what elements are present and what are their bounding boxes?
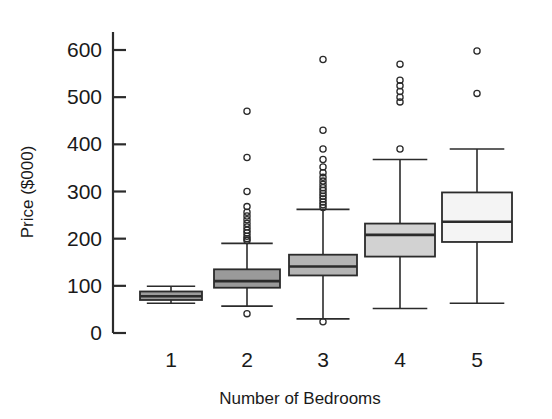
y-axis-tick-label: 300: [67, 180, 102, 203]
y-axis-tick-labels: 0100200300400500600: [67, 38, 102, 344]
outlier-point: [474, 48, 480, 54]
x-axis-category-label: 1: [165, 348, 177, 371]
y-axis: [113, 32, 126, 333]
y-axis-tick-label: 400: [67, 132, 102, 155]
outlier-point: [244, 311, 250, 317]
y-axis-tick-label: 0: [90, 321, 102, 344]
x-axis-category-label: 4: [394, 348, 406, 371]
x-axis-category-label: 5: [471, 348, 483, 371]
y-axis-tick-label: 200: [67, 227, 102, 250]
y-axis-tick-label: 600: [67, 38, 102, 61]
boxplot-group-3: [289, 56, 357, 324]
outlier-point: [397, 146, 403, 152]
box-iqr: [442, 192, 512, 242]
outlier-point: [397, 61, 403, 67]
x-axis-category-label: 2: [241, 348, 253, 371]
x-axis-title: Number of Bedrooms: [219, 389, 381, 408]
boxplot-group-2: [214, 108, 280, 317]
y-axis-title: Price ($000): [18, 146, 37, 239]
x-axis-category-labels: 12345: [165, 348, 483, 371]
box-iqr: [289, 255, 357, 276]
outlier-point: [320, 127, 326, 133]
boxplot-chart: 0100200300400500600 12345 Number of Bedr…: [0, 0, 552, 419]
boxplot-group-1: [140, 286, 202, 303]
boxplot-group-5: [442, 48, 512, 303]
outlier-point: [244, 154, 250, 160]
plot-area: 0100200300400500600 12345 Number of Bedr…: [0, 0, 552, 419]
outlier-point: [320, 146, 326, 152]
outlier-point: [244, 108, 250, 114]
x-axis-category-label: 3: [317, 348, 329, 371]
box-series: [140, 48, 512, 325]
outlier-point: [320, 156, 326, 162]
box-iqr: [365, 224, 435, 257]
outlier-point: [474, 90, 480, 96]
outlier-point: [320, 56, 326, 62]
box-iqr: [214, 269, 280, 287]
y-axis-tick-label: 500: [67, 85, 102, 108]
y-axis-tick-label: 100: [67, 274, 102, 297]
boxplot-group-4: [365, 61, 435, 308]
outlier-point: [244, 188, 250, 194]
